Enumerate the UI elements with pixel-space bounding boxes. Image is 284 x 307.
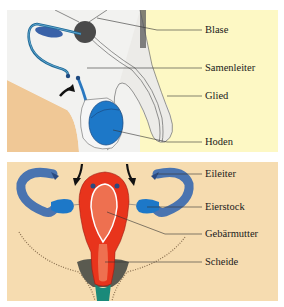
male-anatomy-panel: Blase Samenleiter Glied Hoden: [7, 10, 278, 152]
label-eileiter: Eileiter: [205, 168, 236, 180]
label-glied: Glied: [205, 90, 228, 102]
female-anatomy-panel: Eileiter Eierstock Gebärmutter Scheide: [7, 162, 278, 301]
label-samenleiter: Samenleiter: [205, 62, 255, 74]
label-blase: Blase: [205, 24, 228, 36]
label-scheide: Scheide: [205, 256, 238, 268]
male-anatomy-drawing: [7, 10, 278, 152]
label-gebaermutter: Gebärmutter: [205, 228, 258, 240]
label-eierstock: Eierstock: [205, 201, 245, 213]
label-hoden: Hoden: [205, 136, 233, 148]
